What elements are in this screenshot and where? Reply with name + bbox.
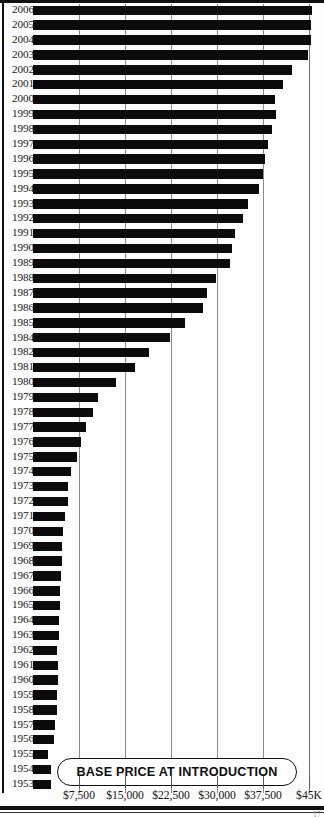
bar: [33, 244, 232, 253]
y-axis-label: 1988: [4, 271, 34, 285]
bar: [33, 393, 98, 402]
y-axis-label: 1972: [4, 494, 34, 508]
bar: [33, 720, 55, 729]
y-axis-label: 1974: [4, 464, 34, 478]
y-axis-label: 2005: [4, 18, 34, 32]
bar: [33, 35, 311, 44]
bar-row: 1982: [0, 346, 324, 360]
bar-row: 1986: [0, 302, 324, 316]
x-axis-tick-label: $30,000: [198, 788, 236, 804]
bar-row: 1968: [0, 555, 324, 569]
chart-title: BASE PRICE AT INTRODUCTION: [58, 759, 296, 785]
bar-row: 1972: [0, 495, 324, 509]
y-axis-label: 2006: [4, 3, 34, 17]
bar-row: 1959: [0, 689, 324, 703]
bar-row: 1981: [0, 361, 324, 375]
y-axis-label: 1964: [4, 613, 34, 627]
bar: [33, 497, 68, 506]
bar-row: 1976: [0, 436, 324, 450]
bar: [33, 214, 243, 223]
y-axis-label: 1981: [4, 360, 34, 374]
bar: [33, 571, 61, 580]
y-axis-label: 1999: [4, 107, 34, 121]
bar-row: 1998: [0, 123, 324, 137]
y-axis-label: 1977: [4, 420, 34, 434]
y-axis-label: 1955: [4, 747, 34, 761]
bar: [33, 750, 48, 759]
bar: [33, 125, 272, 134]
bar-row: 1975: [0, 451, 324, 465]
bar-row: 1984: [0, 332, 324, 346]
y-axis-label: 1986: [4, 301, 34, 315]
y-axis-label: 1960: [4, 673, 34, 687]
bar: [33, 482, 68, 491]
y-axis-label: 1980: [4, 375, 34, 389]
y-axis-label: 1967: [4, 569, 34, 583]
y-axis-label: 1965: [4, 598, 34, 612]
y-axis-label: 1962: [4, 643, 34, 657]
bar-row: 1963: [0, 629, 324, 643]
y-axis-label: 1969: [4, 539, 34, 553]
x-axis-tickmark: [263, 776, 264, 788]
bar-row: 1969: [0, 540, 324, 554]
bar-row: 2006: [0, 4, 324, 18]
y-axis-label: 1971: [4, 509, 34, 523]
bar-row: 1990: [0, 242, 324, 256]
bar: [33, 363, 135, 372]
bar-row: 1985: [0, 317, 324, 331]
bar: [33, 437, 81, 446]
y-axis-label: 1978: [4, 405, 34, 419]
bar: [33, 95, 275, 104]
bar-row: 1962: [0, 644, 324, 658]
bar-row: 1957: [0, 719, 324, 733]
bar-row: 1999: [0, 108, 324, 122]
bar: [33, 378, 116, 387]
bar-row: 1991: [0, 227, 324, 241]
bar-row: 1958: [0, 704, 324, 718]
x-axis-tickmark: [79, 776, 80, 788]
y-axis-label: 1993: [4, 197, 34, 211]
bar-row: 1995: [0, 168, 324, 182]
bar: [33, 690, 57, 699]
bar: [33, 765, 51, 774]
bar-rows: 2006200520042003200220012000199919981997…: [0, 4, 324, 793]
page-number: 17: [313, 810, 321, 817]
bar: [33, 199, 248, 208]
x-axis-tickmark: [171, 776, 172, 788]
y-axis-label: 1987: [4, 286, 34, 300]
bar: [33, 422, 86, 431]
bar: [33, 586, 60, 595]
y-axis-label: 1991: [4, 226, 34, 240]
bar-row: 1978: [0, 406, 324, 420]
bar-row: 1994: [0, 183, 324, 197]
x-axis-tickmark: [125, 776, 126, 788]
y-axis-label: 1957: [4, 718, 34, 732]
bar-row: 2001: [0, 78, 324, 92]
bar-row: 1979: [0, 391, 324, 405]
bar-row: 1996: [0, 153, 324, 167]
bar-row: 1971: [0, 510, 324, 524]
bar: [33, 452, 77, 461]
bar: [33, 110, 276, 119]
y-axis-label: 1954: [4, 762, 34, 776]
bar-row: 1970: [0, 525, 324, 539]
bar-row: 1993: [0, 198, 324, 212]
x-axis-tick-label: $15,000: [106, 788, 144, 804]
y-axis-label: 2003: [4, 48, 34, 62]
bar-row: 1956: [0, 733, 324, 747]
y-axis-label: 1994: [4, 182, 34, 196]
bar: [33, 705, 57, 714]
bar: [33, 661, 58, 670]
bar: [33, 675, 58, 684]
bar-row: 1961: [0, 659, 324, 673]
bar: [33, 20, 311, 29]
bar: [33, 616, 59, 625]
bar-row: 1992: [0, 212, 324, 226]
bar: [33, 229, 235, 238]
y-axis-label: 1968: [4, 554, 34, 568]
bar-row: 1977: [0, 421, 324, 435]
bar-row: 1980: [0, 376, 324, 390]
y-axis-label: 1992: [4, 211, 34, 225]
bar-row: 1967: [0, 570, 324, 584]
bar: [33, 259, 230, 268]
